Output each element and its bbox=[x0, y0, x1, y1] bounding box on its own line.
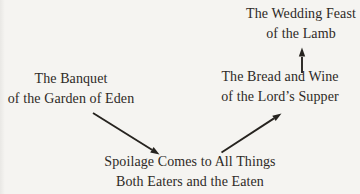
node-banquet: The Banquet of the Garden of Eden bbox=[8, 69, 135, 109]
node-spoilage: Spoilage Comes to All Things Both Eaters… bbox=[104, 152, 275, 192]
arrow-banquet-to-spoilage-icon bbox=[93, 113, 160, 155]
node-wedding-feast-line-2: of the Lamb bbox=[246, 24, 356, 44]
node-spoilage-line-2: Both Eaters and the Eaten bbox=[104, 172, 275, 192]
node-bread-wine: The Bread and Wine of the Lord’s Supper bbox=[221, 67, 338, 107]
node-wedding-feast-line-1: The Wedding Feast bbox=[246, 4, 356, 24]
diagram-canvas: The Wedding Feast of the Lamb The Banque… bbox=[0, 0, 360, 194]
node-bread-wine-line-1: The Bread and Wine bbox=[221, 67, 338, 87]
node-banquet-line-1: The Banquet bbox=[8, 69, 135, 89]
node-bread-wine-line-2: of the Lord’s Supper bbox=[221, 87, 338, 107]
node-wedding-feast: The Wedding Feast of the Lamb bbox=[246, 4, 356, 44]
arrow-spoilage-to-bread-wine-icon bbox=[222, 114, 282, 153]
node-banquet-line-2: of the Garden of Eden bbox=[8, 89, 135, 109]
node-spoilage-line-1: Spoilage Comes to All Things bbox=[104, 152, 275, 172]
